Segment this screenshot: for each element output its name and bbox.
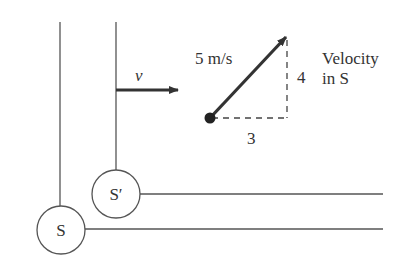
object-dot xyxy=(205,113,216,124)
y-component-label: 4 xyxy=(297,68,306,87)
relative-velocity-diagram: S S′ v 5 m/s 4 3 Velocity in S xyxy=(0,0,417,269)
velocity-magnitude-label: 5 m/s xyxy=(195,49,232,68)
velocity-caption-line2: in S xyxy=(322,69,349,88)
frame-velocity: v xyxy=(116,66,178,90)
x-component-label: 3 xyxy=(247,129,256,148)
object-velocity: 5 m/s 4 3 Velocity in S xyxy=(195,37,379,148)
frame-s-prime-label: S′ xyxy=(109,185,122,204)
frame-velocity-label: v xyxy=(135,66,143,85)
frame-s-label: S xyxy=(56,221,65,240)
velocity-caption-line1: Velocity xyxy=(322,49,379,68)
